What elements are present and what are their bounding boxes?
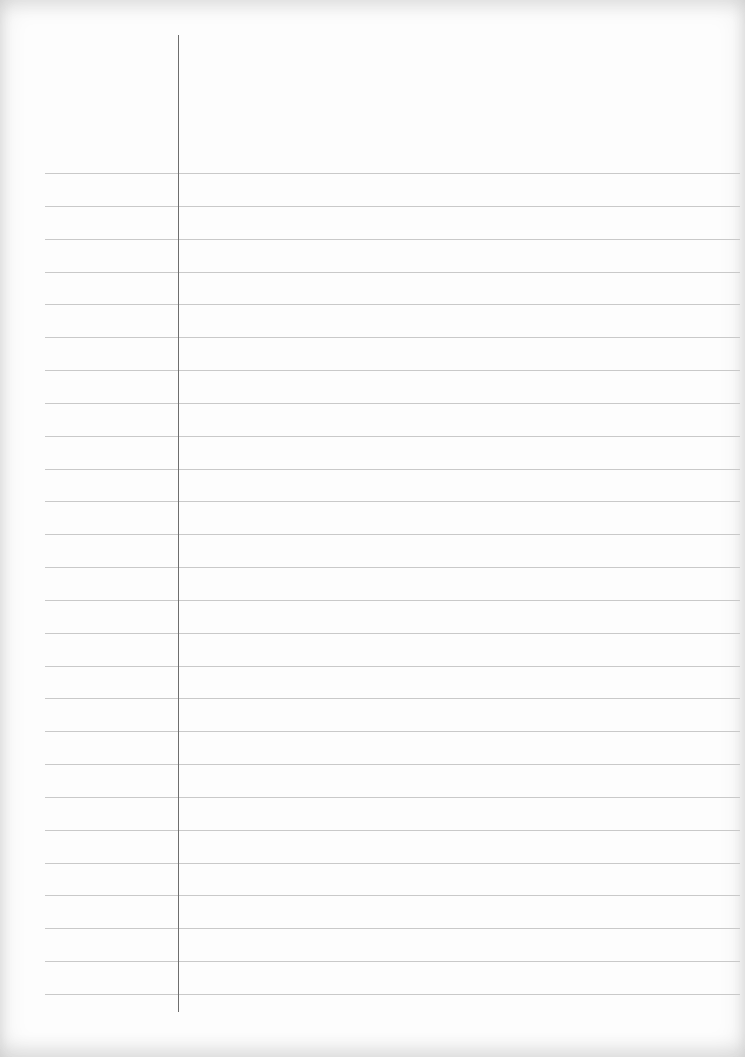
ruled-line	[45, 337, 740, 338]
ruled-line	[45, 994, 740, 995]
ruled-line	[45, 567, 740, 568]
lined-paper-page	[0, 0, 745, 1057]
ruled-line	[45, 961, 740, 962]
ruled-line	[45, 501, 740, 502]
ruled-line	[45, 731, 740, 732]
ruled-line	[45, 895, 740, 896]
ruled-line	[45, 863, 740, 864]
ruled-line	[45, 830, 740, 831]
ruled-line	[45, 534, 740, 535]
ruled-line	[45, 272, 740, 273]
ruled-line	[45, 469, 740, 470]
ruled-line	[45, 928, 740, 929]
ruled-line	[45, 666, 740, 667]
ruled-line	[45, 370, 740, 371]
ruled-line	[45, 239, 740, 240]
margin-line	[178, 35, 179, 1012]
ruled-line	[45, 173, 740, 174]
ruled-line	[45, 206, 740, 207]
ruled-line	[45, 403, 740, 404]
ruled-line	[45, 304, 740, 305]
ruled-line	[45, 698, 740, 699]
ruled-line	[45, 797, 740, 798]
ruled-line	[45, 436, 740, 437]
ruled-line	[45, 600, 740, 601]
ruled-line	[45, 633, 740, 634]
ruled-line	[45, 764, 740, 765]
